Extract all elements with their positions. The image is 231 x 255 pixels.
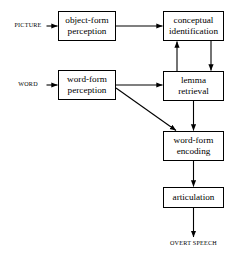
node-articulation[interactable]: articulation [163, 187, 224, 208]
node-label-line1: articulation [173, 192, 215, 203]
input-label-picture: PICTURE [10, 22, 46, 29]
node-word-form-perception[interactable]: word-form perception [58, 70, 116, 100]
node-label-line1: lemma [181, 75, 206, 86]
node-label-line2: perception [68, 85, 107, 96]
output-label-overt-speech: OVERT SPEECH [160, 240, 227, 247]
flow-diagram: PICTURE WORD OVERT SPEECH object-form pe… [0, 0, 231, 255]
node-conceptual-identification[interactable]: conceptual identification [163, 11, 224, 41]
node-object-form-perception[interactable]: object-form perception [58, 11, 116, 41]
node-lemma-retrieval[interactable]: lemma retrieval [163, 71, 224, 101]
node-label-line2: perception [68, 26, 107, 37]
node-label-line1: word-form [67, 74, 107, 85]
node-label-line1: word-form [174, 135, 214, 146]
node-label-line2: identification [169, 26, 218, 37]
node-label-line2: encoding [177, 146, 211, 157]
node-label-line1: object-form [65, 15, 108, 26]
node-label-line2: retrieval [178, 86, 209, 97]
node-word-form-encoding[interactable]: word-form encoding [163, 131, 224, 161]
node-label-line1: conceptual [174, 15, 214, 26]
input-label-word: WORD [10, 81, 46, 88]
